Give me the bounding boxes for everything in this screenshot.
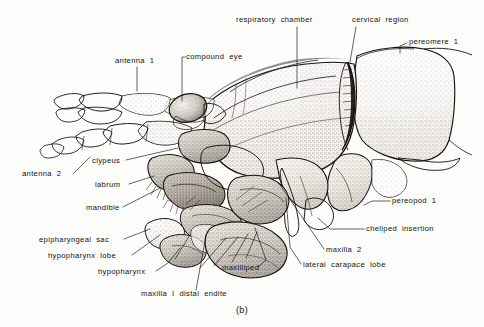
label-antenna-1: antenna 1: [115, 56, 154, 65]
label-maxilliped: maxilliped: [222, 263, 259, 272]
label-pereopod-1: pereopod 1: [392, 196, 436, 205]
label-maxilla-1-distal-endite: maxilla I distal endite: [141, 289, 227, 298]
figure-caption: (b): [236, 305, 248, 315]
anatomical-figure: respiratory chambercervical regionpereom…: [0, 0, 484, 327]
label-cheliped-insertion: cheliped insertion: [366, 224, 434, 233]
label-lateral-carapace-lobe: lateral carapace lobe: [303, 260, 386, 269]
label-pereomere-1: pereomere 1: [409, 37, 458, 46]
clypeus: [179, 130, 230, 164]
label-clypeus: clypeus: [92, 156, 120, 165]
label-compound-eye: compound eye: [186, 52, 242, 61]
label-maxilla-2: maxilla 2: [326, 245, 362, 254]
label-cervical-region: cervical region: [352, 15, 409, 24]
label-respiratory-chamber: respiratory chamber: [236, 15, 313, 24]
label-antenna-2: antenna 2: [22, 169, 61, 178]
label-hypopharynx-lobe: hypopharynx lobe: [48, 251, 116, 260]
label-mandible: mandible: [86, 203, 120, 212]
label-epipharyngeal-sac: epipharyngeal sac: [39, 235, 109, 244]
illustration-canvas: respiratory chambercervical regionpereom…: [0, 0, 484, 327]
label-hypopharynx: hypopharynx: [98, 267, 145, 276]
label-labrum: labrum: [95, 180, 120, 189]
